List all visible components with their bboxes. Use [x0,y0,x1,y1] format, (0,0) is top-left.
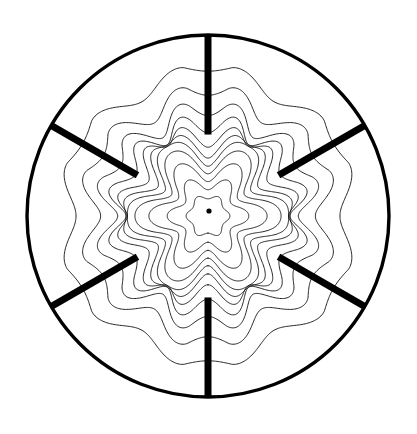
center-point-marker [206,208,211,213]
center-marker-group [206,208,211,213]
contour-plot-canvas [0,0,417,434]
contour-figure [0,0,417,434]
